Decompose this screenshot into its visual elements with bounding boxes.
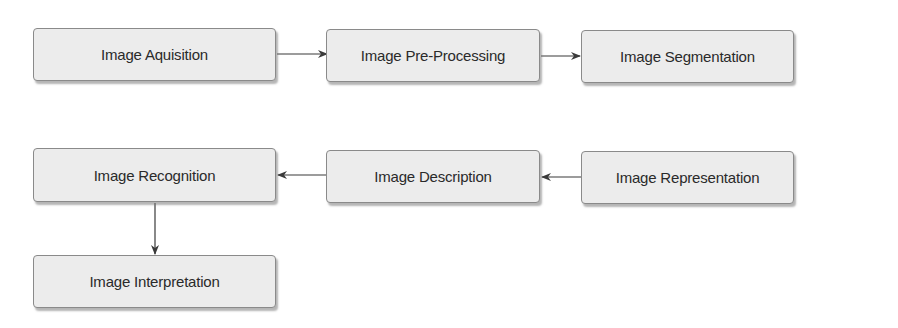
node-image-interpretation: Image Interpretation: [33, 255, 276, 308]
node-image-segmentation: Image Segmentation: [581, 30, 794, 83]
node-label: Image Recognition: [94, 167, 216, 184]
node-label: Image Aquisition: [101, 46, 208, 63]
node-label: Image Pre-Processing: [361, 47, 505, 64]
node-image-pre-processing: Image Pre-Processing: [326, 29, 540, 82]
node-label: Image Interpretation: [89, 273, 219, 290]
node-image-representation: Image Representation: [581, 151, 794, 204]
node-image-aquisition: Image Aquisition: [33, 28, 276, 81]
node-label: Image Representation: [616, 169, 760, 186]
node-image-description: Image Description: [326, 150, 540, 203]
node-label: Image Description: [374, 168, 492, 185]
node-image-recognition: Image Recognition: [33, 148, 276, 202]
node-label: Image Segmentation: [620, 48, 755, 65]
